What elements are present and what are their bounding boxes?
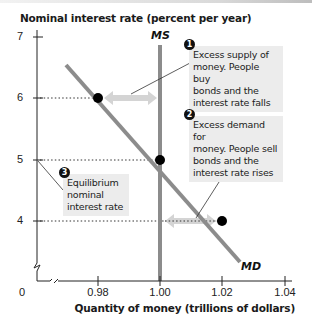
point-equilibrium	[155, 155, 165, 165]
x-tick-098: 0.98	[78, 286, 118, 298]
y-axis-break	[34, 263, 40, 281]
note-1-line-4: interest rate falls	[193, 97, 279, 109]
ms-label: MS	[151, 29, 170, 42]
note-2-line-4: interest rate rises	[193, 167, 279, 179]
note-3-line-3: interest rate	[67, 201, 125, 213]
excess-supply-arrow	[104, 91, 157, 105]
x-tick-0: 0	[2, 286, 42, 298]
point-excess-demand	[217, 216, 227, 226]
x-axis-break	[50, 279, 58, 283]
y-tick-5: 5	[9, 153, 23, 165]
point-excess-supply	[93, 93, 103, 103]
note-2-line-2: money. People sell	[193, 143, 279, 155]
note-2-line-1: Excess demand for	[193, 119, 279, 143]
x-tick-104: 1.04	[265, 286, 305, 298]
note-excess-demand: Excess demand for money. People sell bon…	[189, 116, 283, 182]
note-2-line-3: bonds and the	[193, 155, 279, 167]
badge-2: 2	[184, 109, 195, 120]
y-tick-4: 4	[9, 214, 23, 226]
x-axis-title: Quantity of money (trillions of dollars)	[75, 302, 295, 314]
badge-3: 3	[59, 167, 70, 178]
note-3-line-2: nominal	[67, 189, 125, 201]
note-excess-supply: Excess supply of money. People buy bonds…	[189, 46, 283, 112]
y-tick-6: 6	[9, 91, 23, 103]
y-tick-7: 7	[9, 30, 23, 42]
md-label: MD	[241, 260, 261, 273]
note-1-line-2: money. People buy	[193, 61, 279, 85]
note-equilibrium: Equilibrium nominal interest rate	[63, 174, 129, 216]
note-1-line-1: Excess supply of	[193, 49, 279, 61]
note-1-line-3: bonds and the	[193, 85, 279, 97]
x-tick-100: 1.00	[140, 286, 180, 298]
x-tick-102: 1.02	[202, 286, 242, 298]
badge-1: 1	[184, 39, 195, 50]
note-3-line-1: Equilibrium	[67, 177, 125, 189]
